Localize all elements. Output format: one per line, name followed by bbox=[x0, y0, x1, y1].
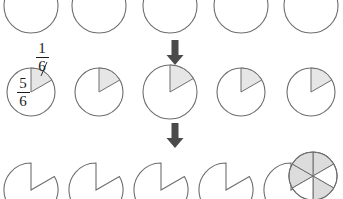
fraction-diagram-canvas: 1 6 5 6 bbox=[0, 0, 343, 199]
one-sixth-removed-circle bbox=[134, 163, 188, 199]
one-sixth-removed-circle bbox=[69, 163, 123, 199]
empty-circle bbox=[143, 0, 197, 33]
one-sixth-removed-circle bbox=[4, 163, 58, 199]
empty-circle bbox=[72, 0, 126, 33]
one-sixth-shaded-circle bbox=[217, 68, 265, 116]
arrow-top-to-middle bbox=[167, 40, 184, 65]
bottom-row-circles bbox=[4, 152, 337, 199]
middle-row-circles bbox=[7, 62, 335, 119]
empty-circle bbox=[214, 0, 268, 33]
fraction-denominator: 6 bbox=[32, 59, 52, 74]
fraction-label-five-sixths: 5 6 bbox=[13, 76, 33, 109]
one-sixth-removed-circle bbox=[199, 163, 253, 199]
fraction-numerator: 5 bbox=[13, 76, 33, 91]
fraction-circles-svg bbox=[0, 0, 343, 199]
empty-circle bbox=[284, 0, 338, 33]
down-arrow-icon bbox=[167, 40, 184, 65]
empty-circle bbox=[4, 0, 58, 33]
one-sixth-shaded-circle bbox=[287, 68, 335, 116]
top-row-circles bbox=[4, 0, 338, 33]
fraction-numerator: 1 bbox=[32, 41, 52, 56]
six-sectors-alternating-circle bbox=[289, 152, 337, 199]
one-sixth-shaded-circle bbox=[143, 65, 197, 119]
fraction-label-one-sixth: 1 6 bbox=[32, 41, 52, 74]
down-arrow-icon bbox=[167, 123, 184, 148]
arrow-middle-to-bottom bbox=[167, 123, 184, 148]
one-sixth-shaded-circle bbox=[75, 68, 123, 116]
fraction-denominator: 6 bbox=[13, 94, 33, 109]
